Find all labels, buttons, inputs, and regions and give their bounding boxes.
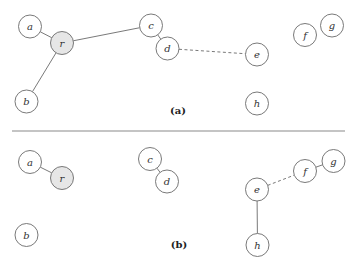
node-label: g bbox=[329, 20, 335, 31]
node-g: g bbox=[322, 150, 345, 173]
node-b: b bbox=[15, 224, 38, 247]
node-label: e bbox=[254, 184, 260, 195]
node-label: d bbox=[164, 176, 170, 187]
node-d: d bbox=[156, 37, 179, 60]
node-label: a bbox=[27, 157, 33, 168]
node-r: r bbox=[51, 167, 74, 190]
node-h: h bbox=[246, 92, 269, 115]
edge-d-e-dashed bbox=[179, 49, 246, 53]
edge-a-r bbox=[40, 32, 52, 38]
node-label: b bbox=[23, 230, 29, 241]
node-g: g bbox=[321, 14, 344, 37]
node-c: c bbox=[139, 148, 162, 171]
edge-f-g bbox=[316, 165, 323, 167]
edge-c-d bbox=[158, 35, 161, 39]
edge-a-r bbox=[40, 167, 51, 173]
node-b: b bbox=[15, 90, 38, 113]
node-h: h bbox=[246, 234, 269, 257]
node-label: b bbox=[23, 96, 29, 107]
edge-r-b bbox=[32, 53, 56, 92]
edge-e-f-dashed bbox=[268, 175, 295, 185]
node-c: c bbox=[140, 14, 163, 37]
node-label: c bbox=[148, 20, 154, 31]
node-d: d bbox=[156, 170, 179, 193]
panel-b-edges bbox=[40, 165, 322, 234]
node-a: a bbox=[19, 15, 42, 38]
edge-c-d bbox=[157, 168, 160, 172]
node-label: h bbox=[254, 98, 260, 109]
node-label: h bbox=[254, 240, 260, 251]
graph-diagram: arbcdefgh (a) arbcdefgh (b) bbox=[0, 0, 358, 266]
node-e: e bbox=[246, 178, 269, 201]
node-label: g bbox=[330, 156, 336, 167]
node-e: e bbox=[246, 43, 269, 66]
node-f: f bbox=[294, 24, 317, 47]
node-a: a bbox=[19, 151, 42, 174]
node-label: d bbox=[164, 43, 170, 54]
node-f: f bbox=[294, 160, 317, 183]
panel-a-label: (a) bbox=[170, 105, 186, 116]
node-label: e bbox=[254, 49, 260, 60]
panel-b: arbcdefgh (b) bbox=[15, 148, 345, 257]
panel-a-nodes: arbcdefgh bbox=[15, 14, 344, 115]
node-r: r bbox=[51, 32, 74, 55]
node-label: c bbox=[147, 154, 153, 165]
node-label: a bbox=[27, 21, 33, 32]
edge-r-c bbox=[73, 28, 139, 41]
panel-b-label: (b) bbox=[171, 239, 187, 250]
panel-a: arbcdefgh (a) bbox=[15, 14, 344, 116]
